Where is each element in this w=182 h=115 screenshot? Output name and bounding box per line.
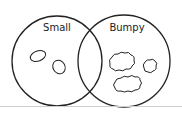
set-label-bumpy: Bumpy xyxy=(109,22,144,33)
bumpy-rock-icon xyxy=(143,59,157,73)
set-label-small: Small xyxy=(43,22,71,33)
page-edge-line xyxy=(0,106,182,107)
bumpy-rock-icon xyxy=(114,76,142,93)
pebble-icon xyxy=(29,49,47,64)
bumpy-rock-icon xyxy=(109,52,134,71)
pebble-icon xyxy=(50,58,67,76)
